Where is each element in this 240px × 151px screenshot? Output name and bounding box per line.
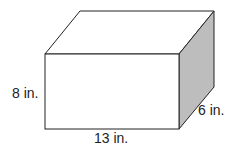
- prism-figure: [0, 0, 240, 151]
- length-label: 13 in.: [94, 131, 128, 145]
- depth-label: 6 in.: [198, 103, 224, 117]
- height-label: 8 in.: [12, 86, 38, 100]
- front-face: [45, 54, 179, 129]
